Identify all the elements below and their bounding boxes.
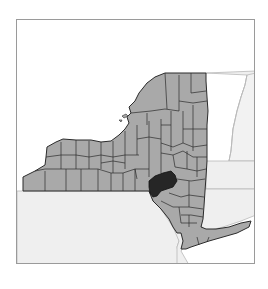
massachusetts-region <box>206 161 255 189</box>
thousand-islands <box>119 114 128 122</box>
new-hampshire-region <box>229 73 255 161</box>
map-frame: New York State counties locator map <box>16 19 255 264</box>
locator-map: Delaware County <box>17 20 255 264</box>
